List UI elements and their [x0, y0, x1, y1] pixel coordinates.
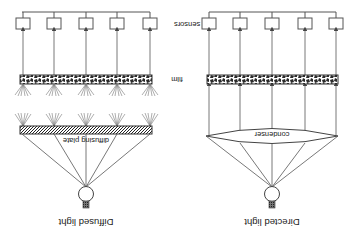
sensor	[16, 12, 30, 29]
sensor	[202, 12, 216, 29]
panel-diffused: diffusing plate Diffused light	[15, 12, 158, 228]
scattered-rays-plate	[15, 113, 158, 126]
sensor	[233, 12, 247, 29]
film-strip	[20, 75, 152, 84]
sensor-array	[202, 12, 343, 29]
light-diagram: condenser Directed light	[0, 0, 358, 235]
condenser-label: condenser	[254, 130, 290, 139]
sensors-label: sensors	[174, 20, 201, 29]
film-label: film	[171, 75, 183, 84]
film-strip	[207, 75, 338, 84]
panel-directed: condenser Directed light	[202, 12, 343, 228]
light-rays	[23, 29, 150, 75]
light-bulb-icon	[79, 187, 94, 209]
panel-title-diffused: Diffused light	[58, 217, 113, 228]
sensor	[79, 12, 93, 29]
light-bulb-icon	[265, 187, 280, 209]
diagram-stage: condenser Directed light	[0, 0, 358, 235]
sensor	[143, 12, 157, 29]
sensor	[110, 12, 124, 29]
sensor	[298, 12, 312, 29]
sensor-array	[16, 12, 157, 29]
diffusing-plate-label: diffusing plate	[63, 136, 109, 145]
sensor	[47, 12, 61, 29]
rotated-group: condenser Directed light	[15, 12, 343, 228]
sensor	[265, 12, 279, 29]
sensor	[329, 12, 343, 29]
panel-title-directed: Directed light	[244, 217, 300, 228]
scattered-rays-film	[15, 84, 158, 96]
diffusing-plate	[20, 126, 152, 134]
